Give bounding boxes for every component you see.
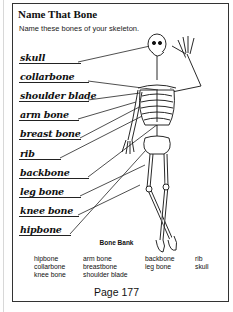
- answer-collarbone: collarbone: [20, 71, 74, 82]
- answer-line: [19, 101, 89, 102]
- answer-rib: rib: [20, 148, 35, 159]
- answer-hipbone: hipbone: [20, 224, 62, 235]
- bank-word: leg bone: [145, 263, 171, 270]
- answer-line: [19, 63, 81, 64]
- answer-line: [19, 159, 61, 160]
- answer-line: [19, 235, 71, 236]
- answer-line: [19, 178, 89, 179]
- bone-bank-title: Bone Bank: [0, 239, 233, 246]
- answer-backbone: backbone: [20, 167, 70, 178]
- answer-line: [19, 139, 81, 140]
- bank-word: breastbone: [83, 263, 117, 270]
- page-number: Page 177: [0, 286, 233, 298]
- answer-line: [19, 120, 79, 121]
- bank-word: shoulder blade: [83, 271, 128, 278]
- answer-leg-bone: leg bone: [20, 186, 64, 197]
- answer-arm-bone: arm bone: [20, 109, 69, 120]
- bank-word: knee bone: [34, 271, 66, 278]
- answer-knee-bone: knee bone: [20, 205, 73, 216]
- answer-line: [19, 197, 81, 198]
- bank-word: arm bone: [83, 255, 112, 262]
- bank-word: collarbone: [34, 263, 65, 270]
- answer-skull: skull: [20, 52, 45, 63]
- answer-line: [19, 216, 79, 217]
- answer-shoulder-blade: shoulder blade: [20, 90, 96, 101]
- bank-word: rib: [195, 255, 203, 262]
- bank-word: backbone: [145, 255, 174, 262]
- bank-word: hipbone: [34, 255, 58, 262]
- answer-line: [19, 82, 89, 83]
- answer-breast-bone: breast bone: [20, 128, 81, 139]
- bank-word: skull: [195, 263, 209, 270]
